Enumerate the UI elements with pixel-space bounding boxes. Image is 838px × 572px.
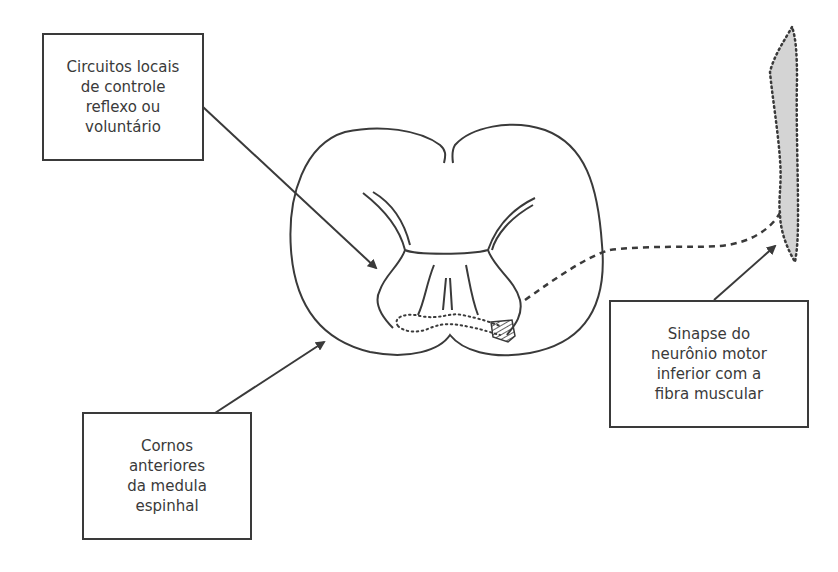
label-anterior-horns-text: Cornos anteriores da medula espinhal xyxy=(127,436,207,516)
label-anterior-horns: Cornos anteriores da medula espinhal xyxy=(82,412,252,540)
arrow-cornos xyxy=(215,342,324,413)
spinal-cord-outline xyxy=(290,125,602,356)
label-local-circuits-text: Circuitos locais de controle reflexo ou … xyxy=(67,57,180,137)
neuron-dotted-loop xyxy=(397,314,500,335)
gray-matter-outline xyxy=(363,192,535,335)
label-neuromuscular-synapse: Sinapse do neurônio motor inferior com a… xyxy=(609,300,809,428)
motor-neuron-body-icon xyxy=(491,320,515,342)
muscle-fiber-icon xyxy=(770,27,798,262)
label-local-circuits: Circuitos locais de controle reflexo ou … xyxy=(42,33,204,161)
arrow-sinapse xyxy=(714,246,775,300)
label-neuromuscular-synapse-text: Sinapse do neurônio motor inferior com a… xyxy=(651,324,767,404)
motor-axon-dashed xyxy=(525,213,780,300)
